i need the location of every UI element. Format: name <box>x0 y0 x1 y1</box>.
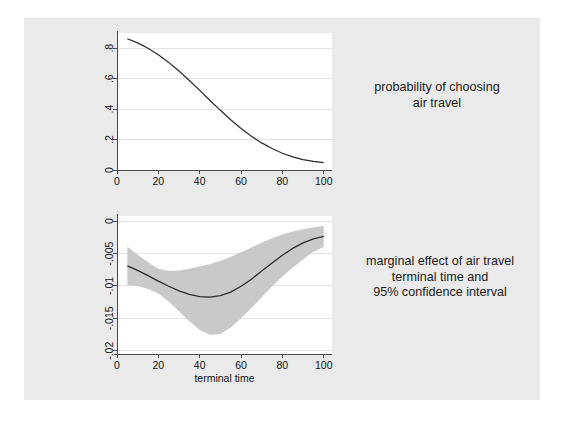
x-tick-label-4: 80 <box>277 175 289 187</box>
x-axis-title: terminal time <box>194 372 254 384</box>
x-tick-label-1: 20 <box>153 359 165 371</box>
probability-chart-svg: 0.2.4.6.8020406080100 <box>55 27 335 197</box>
y-tick-label-3: -.015 <box>103 306 115 330</box>
marginal-effect-chart-svg: 0-.005-.01-.015-.02020406080100terminal … <box>55 208 335 393</box>
figure-canvas: 0.2.4.6.8020406080100 0-.005-.01-.015-.0… <box>24 18 540 400</box>
x-tick-label-5: 100 <box>315 359 333 371</box>
y-tick-label-3: .6 <box>103 74 115 83</box>
y-tick-label-2: .4 <box>103 105 115 114</box>
probability-chart-panel: 0.2.4.6.8020406080100 <box>55 27 335 197</box>
x-tick-label-2: 40 <box>194 359 206 371</box>
x-tick-label-2: 40 <box>194 175 206 187</box>
probability-chart-caption: probability of choosing air travel <box>342 80 532 111</box>
x-tick-label-0: 0 <box>114 175 120 187</box>
y-tick-label-0: 0 <box>103 218 115 224</box>
marginal-effect-chart-caption: marginal effect of air travel terminal t… <box>342 254 538 301</box>
y-tick-label-2: -.01 <box>103 277 115 295</box>
plot-background <box>117 33 332 170</box>
x-tick-label-3: 60 <box>235 359 247 371</box>
y-tick-label-4: .8 <box>103 44 115 53</box>
y-tick-label-0: 0 <box>103 167 115 173</box>
x-tick-label-4: 80 <box>277 359 289 371</box>
marginal-effect-chart-panel: 0-.005-.01-.015-.02020406080100terminal … <box>55 208 335 393</box>
y-tick-label-1: -.005 <box>103 241 115 265</box>
x-tick-label-1: 20 <box>153 175 165 187</box>
x-tick-label-3: 60 <box>235 175 247 187</box>
y-tick-label-1: .2 <box>103 135 115 144</box>
y-tick-label-4: -.02 <box>103 342 115 360</box>
x-tick-label-5: 100 <box>315 175 333 187</box>
x-tick-label-0: 0 <box>114 359 120 371</box>
